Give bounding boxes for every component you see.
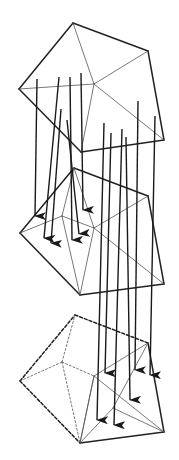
mesh-outline-edge-dashed — [20, 315, 75, 381]
projection-arrow — [35, 79, 37, 216]
projection-arrow — [114, 129, 122, 425]
projection-arrow — [105, 133, 111, 373]
mesh-outline-edge — [148, 196, 164, 284]
mesh-top — [19, 23, 164, 152]
mesh-inner-edge — [80, 228, 94, 295]
projection-arrow — [150, 116, 155, 375]
mesh-outline-edge-dashed — [20, 381, 80, 443]
mesh-inner-edge-dashed — [20, 362, 62, 381]
mesh-inner-edge — [94, 84, 164, 140]
mesh-outline-edge — [20, 233, 80, 295]
meshes — [19, 23, 164, 443]
projection-arrow — [51, 109, 61, 243]
mesh-inner-edge — [94, 376, 164, 432]
mesh-outline-edge — [19, 89, 81, 152]
mesh-inner-edge — [94, 343, 148, 376]
mesh-inner-edge — [62, 216, 80, 295]
mesh-middle — [20, 168, 164, 295]
mesh-inner-edge — [73, 23, 94, 84]
mesh-outline-edge — [19, 23, 73, 89]
mesh-inner-edge — [94, 51, 148, 84]
mesh-outline-edge — [80, 432, 164, 443]
projection-arrow — [135, 101, 138, 370]
mesh-bottom — [20, 315, 164, 443]
mesh-outline-edge-dashed — [75, 315, 148, 343]
mesh-inner-edge — [94, 228, 164, 284]
mesh-inner-edge — [19, 84, 94, 89]
projection-arrows — [35, 73, 155, 425]
mesh-inner-edge — [80, 376, 94, 443]
mesh-outline-edge — [148, 51, 164, 140]
projection-diagram — [0, 0, 179, 460]
mesh-outline-edge — [81, 140, 164, 152]
mesh-inner-edge-dashed — [62, 362, 80, 443]
mesh-outline-edge — [73, 23, 148, 51]
mesh-inner-edge-dashed — [62, 362, 94, 376]
projection-arrow — [97, 123, 104, 420]
projection-arrow — [126, 137, 130, 400]
mesh-inner-edge — [81, 84, 94, 152]
